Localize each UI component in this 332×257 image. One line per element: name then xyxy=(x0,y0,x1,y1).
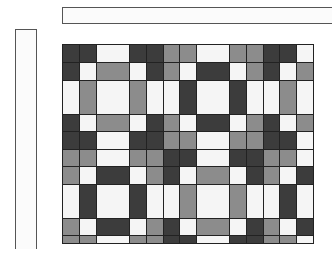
grid-cell xyxy=(62,44,80,63)
grid-cell xyxy=(96,114,130,132)
grid-cell xyxy=(146,166,164,185)
grid-cell xyxy=(229,218,247,236)
grid-cell xyxy=(146,235,164,244)
grid-cell xyxy=(179,218,197,236)
grid-cell xyxy=(196,235,230,244)
grid-cell xyxy=(229,166,247,185)
grid-cell xyxy=(129,149,147,167)
grid-cell xyxy=(179,149,197,167)
grid-cell xyxy=(246,114,264,132)
grid-cell xyxy=(279,235,297,244)
grid-cell xyxy=(179,184,197,219)
grid-cell xyxy=(246,235,264,244)
grid-cell xyxy=(296,166,314,185)
grid-cell xyxy=(263,149,280,167)
grid-cell xyxy=(296,149,314,167)
grid-cell xyxy=(196,184,230,219)
grid-cell xyxy=(129,235,147,244)
grid-cell xyxy=(96,235,130,244)
grid-cell xyxy=(129,131,147,150)
grid-cell xyxy=(279,44,297,63)
grid-cell xyxy=(146,184,164,219)
grid-cell xyxy=(246,166,264,185)
grid-cell xyxy=(163,62,180,81)
grid-cell xyxy=(279,218,297,236)
grid-cell xyxy=(229,114,247,132)
grid-cell xyxy=(129,80,147,115)
grid-cell xyxy=(279,114,297,132)
grid-cell xyxy=(296,62,314,81)
grid-cell xyxy=(179,166,197,185)
grid-cell xyxy=(229,80,247,115)
grid-cell xyxy=(62,80,80,115)
grid-cell xyxy=(263,235,280,244)
grid-cell xyxy=(279,149,297,167)
grid-cell xyxy=(196,218,230,236)
grid-cell xyxy=(62,62,80,81)
grid-cell xyxy=(246,218,264,236)
grid-cell xyxy=(229,235,247,244)
grid-cell xyxy=(263,114,280,132)
grid-cell xyxy=(296,131,314,150)
grid-cell xyxy=(163,131,180,150)
grid-cell xyxy=(146,114,164,132)
grid-cell xyxy=(296,114,314,132)
grid-cell xyxy=(146,218,164,236)
grid-cell xyxy=(62,166,80,185)
grid-cell xyxy=(279,80,297,115)
grid-cell xyxy=(79,62,97,81)
grid-cell xyxy=(79,149,97,167)
grid-cell xyxy=(279,184,297,219)
grid-cell xyxy=(196,62,230,81)
grid-cell xyxy=(263,218,280,236)
grid-cell xyxy=(62,184,80,219)
grid-cell xyxy=(146,131,164,150)
grid-cell xyxy=(163,166,180,185)
grid-cell xyxy=(146,80,164,115)
grid-cell xyxy=(246,62,264,81)
grid-cell xyxy=(279,131,297,150)
grid-cell xyxy=(296,235,314,244)
grid-cell xyxy=(246,44,264,63)
grid-cell xyxy=(263,166,280,185)
grid-cell xyxy=(246,184,264,219)
grid-cell xyxy=(129,184,147,219)
grid-cell xyxy=(62,131,80,150)
grid-cell xyxy=(296,184,314,219)
grid-cell xyxy=(96,184,130,219)
grid-cell xyxy=(79,218,97,236)
grid-cell xyxy=(246,131,264,150)
grid-cell xyxy=(96,166,130,185)
grid-cell xyxy=(196,131,230,150)
grid-cell xyxy=(96,62,130,81)
grid-cell xyxy=(146,44,164,63)
grid-cell xyxy=(163,235,180,244)
grid-cell xyxy=(263,131,280,150)
grid-cell xyxy=(129,62,147,81)
grid-cell xyxy=(163,80,180,115)
grid-cell xyxy=(146,62,164,81)
grid-cell xyxy=(263,184,280,219)
grid-cell xyxy=(296,44,314,63)
grid-cell xyxy=(196,166,230,185)
grid-cell xyxy=(263,62,280,81)
grid-cell xyxy=(179,80,197,115)
grid-cell xyxy=(179,44,197,63)
grid-cell xyxy=(129,166,147,185)
grid-cell xyxy=(96,149,130,167)
grid-cell xyxy=(163,184,180,219)
grid-cell xyxy=(129,44,147,63)
grid-cell xyxy=(79,184,97,219)
grid-cell xyxy=(179,62,197,81)
grid-cell xyxy=(79,114,97,132)
grid-cell xyxy=(229,149,247,167)
grid-cell xyxy=(163,114,180,132)
grid-cell xyxy=(96,80,130,115)
grid-cell xyxy=(296,80,314,115)
grid-cell xyxy=(163,44,180,63)
grid-cell xyxy=(62,149,80,167)
grid-cell xyxy=(229,184,247,219)
grid-cell xyxy=(263,80,280,115)
grid-cell xyxy=(229,44,247,63)
